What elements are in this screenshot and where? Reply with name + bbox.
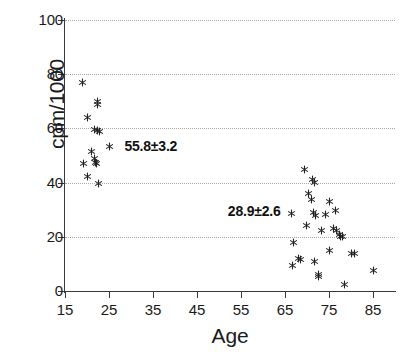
data-point-elderly bbox=[289, 238, 298, 247]
x-tick-85 bbox=[373, 291, 374, 298]
x-tick-label-65: 65 bbox=[265, 302, 305, 317]
data-point-elderly bbox=[287, 209, 296, 218]
y-axis-title: cpm/1000 bbox=[45, 29, 69, 179]
data-point-elderly bbox=[302, 221, 311, 230]
x-tick-75 bbox=[329, 291, 330, 298]
data-point-elderly bbox=[288, 261, 297, 270]
data-point-elderly bbox=[350, 249, 359, 258]
data-point-young bbox=[83, 113, 92, 122]
data-point-elderly bbox=[338, 232, 347, 241]
data-point-young bbox=[79, 159, 88, 168]
x-tick-label-25: 25 bbox=[89, 302, 129, 317]
x-tick-65 bbox=[285, 291, 286, 298]
y-tick-label-100: 100 bbox=[17, 12, 63, 27]
data-point-elderly bbox=[317, 226, 326, 235]
gridline-y-40 bbox=[65, 183, 395, 184]
data-point-young bbox=[78, 78, 87, 87]
x-tick-label-45: 45 bbox=[177, 302, 217, 317]
data-point-elderly bbox=[325, 197, 334, 206]
x-axis-line bbox=[64, 291, 396, 292]
data-point-elderly bbox=[340, 280, 349, 289]
annotation-elderly-mean: 28.9±2.6 bbox=[228, 203, 281, 219]
data-point-elderly bbox=[311, 211, 320, 220]
x-tick-label-15: 15 bbox=[45, 302, 85, 317]
data-point-elderly bbox=[321, 210, 330, 219]
x-tick-label-75: 75 bbox=[309, 302, 349, 317]
data-point-young bbox=[105, 142, 114, 151]
x-axis-title: Age bbox=[170, 324, 290, 348]
data-point-elderly bbox=[314, 272, 323, 281]
x-tick-55 bbox=[241, 291, 242, 298]
annotation-young-mean: 55.8±3.2 bbox=[124, 138, 177, 154]
x-tick-label-35: 35 bbox=[133, 302, 173, 317]
scatter-chart: 020406080100 1525354555657585 55.8±3.2 2… bbox=[0, 0, 418, 358]
data-point-elderly bbox=[307, 195, 316, 204]
data-point-elderly bbox=[310, 257, 319, 266]
data-point-young bbox=[95, 127, 104, 136]
x-tick-15 bbox=[65, 291, 66, 298]
data-point-elderly bbox=[325, 246, 334, 255]
data-point-young bbox=[92, 159, 101, 168]
gridline-y-100 bbox=[65, 20, 395, 21]
y-tick-label-0: 0 bbox=[17, 283, 63, 298]
data-point-elderly bbox=[300, 165, 309, 174]
data-point-elderly bbox=[369, 266, 378, 275]
data-point-young bbox=[94, 179, 103, 188]
x-tick-label-55: 55 bbox=[221, 302, 261, 317]
data-point-elderly bbox=[310, 178, 319, 187]
x-tick-45 bbox=[197, 291, 198, 298]
gridline-y-80 bbox=[65, 74, 395, 75]
x-tick-25 bbox=[109, 291, 110, 298]
plot-area bbox=[65, 20, 395, 291]
data-point-elderly bbox=[331, 206, 340, 215]
x-tick-label-85: 85 bbox=[353, 302, 393, 317]
gridline-y-60 bbox=[65, 128, 395, 129]
y-tick-label-20: 20 bbox=[17, 229, 63, 244]
data-point-young bbox=[83, 172, 92, 181]
x-tick-35 bbox=[153, 291, 154, 298]
data-point-young bbox=[93, 100, 102, 109]
